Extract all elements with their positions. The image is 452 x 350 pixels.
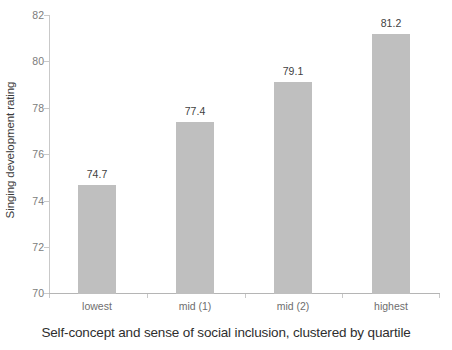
- y-tick-label: 82: [24, 10, 44, 21]
- bar-highest[interactable]: [372, 34, 410, 294]
- bar-lowest[interactable]: [78, 185, 116, 294]
- bar-value-label: 74.7: [67, 169, 127, 180]
- x-tick-mark: [147, 294, 148, 298]
- x-cat-label-highest: highest: [346, 301, 436, 312]
- x-tick-mark: [49, 294, 50, 298]
- x-tick-mark: [245, 294, 246, 298]
- bar-chart: Singing development rating 82 80 78 76 7…: [0, 0, 452, 350]
- y-tick-label: 70: [24, 288, 44, 299]
- y-tick-label: 76: [24, 149, 44, 160]
- y-axis-title-text: Singing development rating: [4, 82, 16, 219]
- x-axis-title: Self-concept and sense of social inclusi…: [0, 325, 452, 340]
- y-axis-tick-labels: 82 80 78 76 74 72 70: [22, 0, 44, 350]
- bar-mid-1[interactable]: [176, 122, 214, 294]
- plot-area: 74.7 77.4 79.1 81.2: [49, 15, 440, 294]
- y-tick-label: 74: [24, 195, 44, 206]
- y-tick-label: 78: [24, 103, 44, 114]
- y-axis-title: Singing development rating: [0, 0, 20, 300]
- x-tick-mark: [342, 294, 343, 298]
- x-cat-label-mid-1: mid (1): [150, 301, 240, 312]
- bar-value-label: 77.4: [165, 106, 225, 117]
- x-axis-category-labels: lowest mid (1) mid (2) highest: [49, 301, 440, 317]
- y-tick-label: 72: [24, 242, 44, 253]
- bar-value-label: 79.1: [263, 66, 323, 77]
- x-tick-mark: [439, 294, 440, 298]
- x-axis-tick-marks: [49, 294, 440, 299]
- x-cat-label-lowest: lowest: [52, 301, 142, 312]
- bar-value-label: 81.2: [361, 18, 421, 29]
- y-tick-label: 80: [24, 56, 44, 67]
- x-cat-label-mid-2: mid (2): [248, 301, 338, 312]
- bar-mid-2[interactable]: [274, 82, 312, 294]
